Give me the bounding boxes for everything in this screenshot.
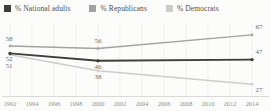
- trend-line-chart: % National adults % Republicans % Democr…: [0, 0, 271, 111]
- x-tick-label-2010: 2010: [202, 100, 215, 107]
- x-tick-label-1994: 1994: [26, 100, 39, 107]
- x-tick-label-1996: 1996: [48, 100, 61, 107]
- x-tick-label-2008: 2008: [180, 100, 193, 107]
- x-tick-label-2012: 2012: [224, 100, 237, 107]
- x-tick-label-1992: 1992: [4, 100, 17, 107]
- value-label-republicans-2014: 67: [256, 23, 264, 31]
- data-point-republicans-2000: [97, 47, 100, 50]
- series-line-national-adults: [10, 53, 252, 60]
- x-tick-label-2014: 2014: [246, 100, 259, 107]
- x-tick-label-2002: 2002: [114, 100, 127, 107]
- x-tick-label-2004: 2004: [136, 100, 149, 107]
- value-label-democrats-2014: 27: [256, 86, 264, 94]
- x-tick-label-1998: 1998: [70, 100, 83, 107]
- data-point-republicans-1992: [9, 45, 12, 48]
- data-point-national-adults-2014: [250, 58, 253, 61]
- value-label-national-adults-2000: 46: [95, 63, 103, 71]
- series-line-republicans: [10, 35, 252, 49]
- data-point-democrats-2014: [251, 83, 254, 86]
- value-label-democrats-2000: 38: [95, 73, 103, 81]
- value-label-democrats-1992: 51: [6, 62, 14, 70]
- value-label-republicans-1992: 58: [6, 35, 14, 43]
- line-chart-plot-area: 1992199419961998200020022004200620082010…: [0, 0, 271, 111]
- x-tick-label-2006: 2006: [158, 100, 171, 107]
- data-point-republicans-2014: [251, 34, 254, 37]
- x-tick-label-2000: 2000: [92, 100, 105, 107]
- value-label-national-adults-2014: 47: [256, 48, 264, 56]
- value-label-republicans-2000: 56: [95, 37, 103, 45]
